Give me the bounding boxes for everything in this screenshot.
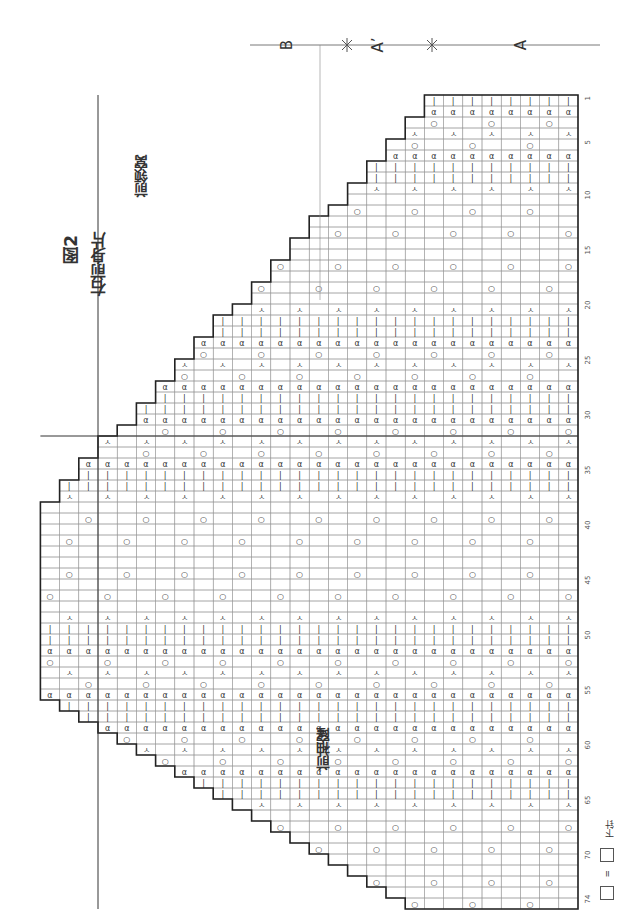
svg-text:|: | — [260, 702, 263, 711]
svg-text:α: α — [335, 647, 340, 656]
svg-text:○: ○ — [565, 229, 572, 238]
svg-text:○: ○ — [488, 680, 495, 689]
svg-text:|: | — [548, 97, 551, 106]
svg-text:α: α — [355, 339, 360, 348]
svg-text:α: α — [412, 724, 417, 733]
svg-text:ㅅ: ㅅ — [219, 746, 226, 755]
legend-meaning: 下针 — [602, 820, 615, 838]
svg-text:ㅅ: ㅅ — [296, 669, 303, 678]
svg-text:○: ○ — [431, 119, 438, 128]
svg-text:|: | — [413, 636, 416, 645]
svg-text:ㅅ: ㅅ — [488, 361, 495, 370]
svg-text:○: ○ — [469, 900, 476, 909]
svg-text:ㅅ: ㅅ — [411, 801, 418, 810]
svg-text:60: 60 — [584, 741, 592, 750]
svg-text:ㅅ: ㅅ — [411, 306, 418, 315]
svg-text:|: | — [471, 779, 474, 788]
svg-text:|: | — [471, 702, 474, 711]
svg-text:|: | — [356, 482, 359, 491]
svg-text:|: | — [490, 625, 493, 634]
svg-text:○: ○ — [392, 823, 399, 832]
svg-text:α: α — [374, 724, 379, 733]
svg-text:|: | — [87, 482, 90, 491]
svg-text:|: | — [490, 328, 493, 337]
svg-text:|: | — [471, 790, 474, 799]
svg-text:|: | — [529, 328, 532, 337]
svg-text:|: | — [509, 174, 512, 183]
svg-text:|: | — [260, 317, 263, 326]
svg-text:α: α — [547, 383, 552, 392]
svg-text:α: α — [143, 647, 148, 656]
svg-text:α: α — [431, 460, 436, 469]
svg-text:α: α — [278, 647, 283, 656]
svg-text:α: α — [508, 416, 513, 425]
svg-text:|: | — [221, 625, 224, 634]
svg-text:|: | — [433, 317, 436, 326]
svg-text:|: | — [452, 790, 455, 799]
svg-text:α: α — [143, 416, 148, 425]
svg-text:|: | — [452, 97, 455, 106]
svg-text:α: α — [105, 460, 110, 469]
svg-text:α: α — [431, 152, 436, 161]
svg-text:|: | — [394, 636, 397, 645]
svg-text:ㅅ: ㅅ — [373, 669, 380, 678]
svg-text:|: | — [567, 471, 570, 480]
svg-text:|: | — [375, 328, 378, 337]
svg-text:○: ○ — [354, 372, 361, 381]
svg-text:|: | — [375, 394, 378, 403]
svg-text:|: | — [356, 779, 359, 788]
svg-text:ㅅ: ㅅ — [181, 438, 188, 447]
svg-text:ㅅ: ㅅ — [104, 614, 111, 623]
svg-text:○: ○ — [488, 284, 495, 293]
svg-text:|: | — [529, 163, 532, 172]
svg-text:|: | — [317, 482, 320, 491]
svg-text:|: | — [260, 482, 263, 491]
svg-text:○: ○ — [469, 570, 476, 579]
svg-text:|: | — [433, 471, 436, 480]
svg-text:|: | — [490, 394, 493, 403]
svg-text:|: | — [260, 636, 263, 645]
svg-text:○: ○ — [277, 658, 284, 667]
svg-text:ㅅ: ㅅ — [219, 493, 226, 502]
svg-text:α: α — [508, 152, 513, 161]
svg-text:|: | — [471, 97, 474, 106]
svg-text:α: α — [566, 416, 571, 425]
svg-text:ㅅ: ㅅ — [66, 614, 73, 623]
svg-text:|: | — [471, 482, 474, 491]
svg-text:|: | — [260, 328, 263, 337]
svg-text:ㅅ: ㅅ — [565, 185, 572, 194]
svg-text:ㅅ: ㅅ — [488, 493, 495, 502]
svg-text:α: α — [163, 647, 168, 656]
svg-text:ㅅ: ㅅ — [527, 746, 534, 755]
svg-text:|: | — [87, 471, 90, 480]
svg-text:ㅅ: ㅅ — [296, 493, 303, 502]
svg-text:|: | — [509, 702, 512, 711]
svg-text:|: | — [202, 394, 205, 403]
svg-text:|: | — [279, 405, 282, 414]
svg-text:α: α — [163, 383, 168, 392]
svg-text:ㅅ: ㅅ — [527, 669, 534, 678]
svg-text:ㅅ: ㅅ — [565, 438, 572, 447]
svg-text:|: | — [356, 713, 359, 722]
svg-text:|: | — [279, 471, 282, 480]
svg-text:|: | — [452, 702, 455, 711]
svg-text:α: α — [182, 460, 187, 469]
svg-text:α: α — [220, 768, 225, 777]
svg-text:○: ○ — [335, 262, 342, 271]
svg-text:|: | — [202, 482, 205, 491]
svg-text:○: ○ — [450, 592, 457, 601]
svg-text:α: α — [335, 460, 340, 469]
figure-title: 图2 — [58, 235, 83, 264]
svg-text:○: ○ — [277, 427, 284, 436]
svg-text:|: | — [509, 394, 512, 403]
svg-text:α: α — [470, 691, 475, 700]
svg-text:|: | — [356, 625, 359, 634]
svg-text:|: | — [202, 702, 205, 711]
svg-text:|: | — [337, 636, 340, 645]
svg-text:|: | — [548, 790, 551, 799]
svg-text:α: α — [374, 339, 379, 348]
svg-text:|: | — [394, 163, 397, 172]
svg-text:α: α — [220, 339, 225, 348]
svg-text:α: α — [393, 416, 398, 425]
svg-text:|: | — [106, 702, 109, 711]
